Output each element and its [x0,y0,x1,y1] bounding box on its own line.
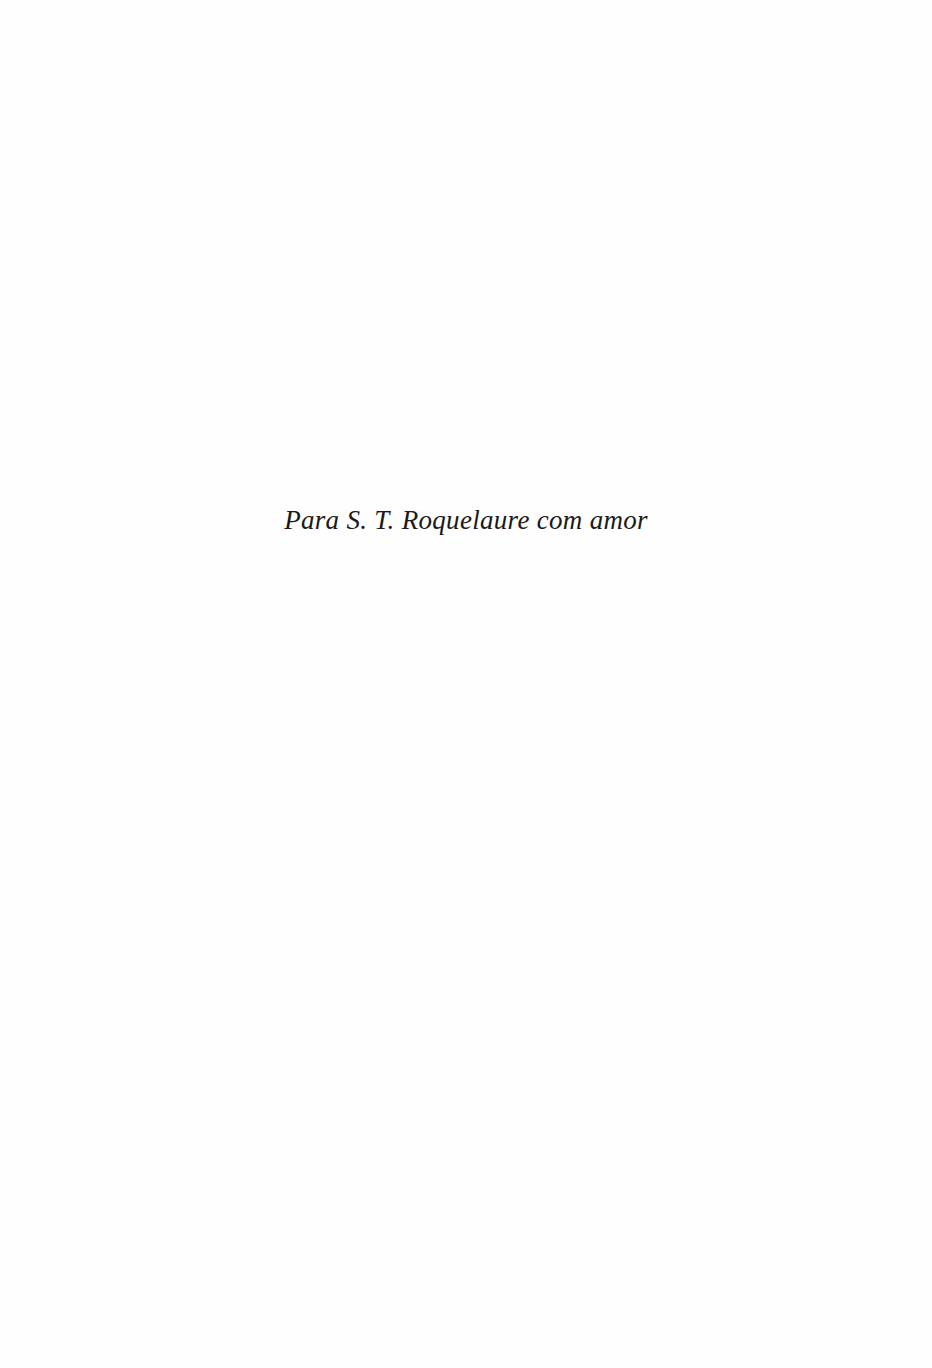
dedication-text: Para S. T. Roquelaure com amor [0,500,932,540]
book-page: Para S. T. Roquelaure com amor [0,0,932,1368]
